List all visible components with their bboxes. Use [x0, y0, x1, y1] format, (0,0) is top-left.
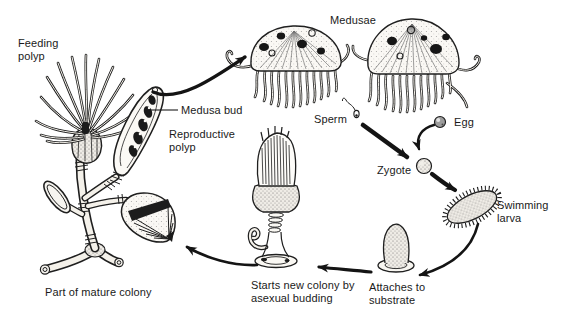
- mature-colony-illustration: [36, 55, 178, 274]
- arrow-attached-to-new-colony: [319, 267, 371, 272]
- medusa-left-illustration: [227, 26, 349, 107]
- medusae-illustration: [227, 19, 480, 112]
- feeding-polyp-label: Feeding polyp: [18, 37, 58, 63]
- egg-label: Egg: [454, 116, 474, 129]
- attaches-to-substrate-label: Attaches to substrate: [369, 281, 425, 307]
- reproductive-polyp-label: Reproductive polyp: [169, 128, 235, 154]
- reproductive-polyp-illustration: [110, 87, 163, 184]
- arrow-sperm-to-zygote: [363, 125, 407, 157]
- zygote-label: Zygote: [377, 164, 411, 177]
- diagram-canvas: Feeding polyp Medusa bud Reproductive po…: [0, 0, 566, 326]
- sperm-label: Sperm: [314, 113, 347, 126]
- attached-larva-illustration: [378, 224, 414, 272]
- arrow-larva-to-attached: [420, 224, 478, 275]
- lifecycle-illustration: [0, 0, 566, 326]
- arrow-egg-to-zygote: [418, 125, 434, 149]
- egg-illustration: [435, 117, 446, 128]
- zygote-illustration: [417, 159, 432, 174]
- gonophore-illustration: [121, 193, 175, 242]
- swimming-larva-label: Swimming larva: [497, 199, 549, 225]
- medusa-right-illustration: [353, 19, 480, 112]
- medusae-label: Medusae: [330, 14, 376, 27]
- starts-new-colony-label: Starts new colony by asexual budding: [251, 279, 355, 305]
- medusa-bud-label: Medusa bud: [181, 104, 243, 117]
- arrow-zygote-to-larva: [432, 174, 455, 190]
- part-of-mature-colony-label: Part of mature colony: [45, 286, 152, 299]
- arrow-new-colony-to-mature: [187, 247, 257, 265]
- new-colony-illustration: [250, 126, 299, 268]
